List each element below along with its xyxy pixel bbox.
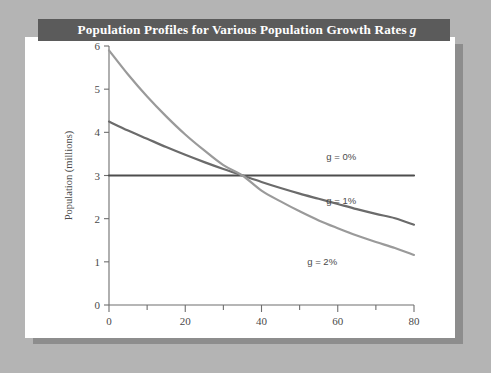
x-axis-tick-label: 80: [409, 315, 421, 327]
curve-annotation-label: g = 2%: [307, 256, 337, 267]
chart-title-italic-symbol: g: [407, 22, 417, 38]
x-axis-tick-label: 40: [256, 315, 268, 327]
chart-title-text: Population Profiles for Various Populati…: [78, 22, 407, 38]
series-line-g-2-: [109, 50, 414, 255]
y-axis-tick-label: 4: [95, 126, 101, 138]
y-axis-title: Population (millions): [63, 130, 75, 220]
y-axis-tick-label: 2: [95, 213, 101, 225]
y-axis-tick-label: 0: [95, 299, 101, 311]
curve-annotation-label: g = 0%: [326, 151, 356, 162]
x-axis-tick-label: 20: [180, 315, 192, 327]
y-axis-tick-label: 3: [95, 170, 101, 182]
y-axis-tick-label: 5: [95, 83, 101, 95]
curve-annotation-label: g = 1%: [326, 195, 356, 206]
x-axis-tick-label: 60: [332, 315, 344, 327]
plot-area: 0123456020406080Age (years)Population (m…: [25, 37, 455, 338]
y-axis-tick-label: 6: [95, 40, 101, 52]
line-chart: 0123456020406080Age (years)Population (m…: [25, 37, 455, 338]
x-axis-tick-label: 0: [106, 315, 112, 327]
figure-background: Population Profiles for Various Populati…: [0, 0, 491, 373]
series-line-g-1-: [109, 122, 414, 225]
y-axis-tick-label: 1: [95, 256, 101, 268]
